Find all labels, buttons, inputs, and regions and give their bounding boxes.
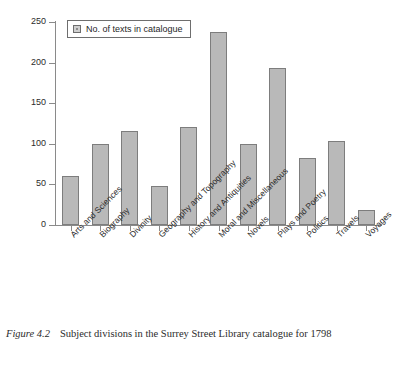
y-tick-label-100: 100: [14, 139, 46, 148]
y-tick-200: [49, 63, 55, 64]
bar-arts-and-sciences: [62, 176, 79, 225]
y-tick-label-50: 50: [14, 179, 46, 188]
y-tick-250: [49, 22, 55, 23]
figure-caption: Figure 4.2Subject divisions in the Surre…: [6, 327, 391, 341]
y-tick-150: [49, 103, 55, 104]
y-tick-100: [49, 144, 55, 145]
legend-label: No. of texts in catalogue: [86, 24, 183, 34]
y-tick-0: [49, 225, 55, 226]
figure-number: Figure 4.2: [6, 328, 50, 339]
legend-swatch-icon: [73, 25, 81, 33]
bar-plays-and-poetry: [269, 68, 286, 225]
y-tick-label-250: 250: [14, 17, 46, 26]
y-tick-label-0: 0: [14, 220, 46, 229]
y-tick-50: [49, 184, 55, 185]
figure-container: 050100150200250 Arts and SciencesBiograp…: [0, 0, 397, 373]
bar-travels: [328, 141, 345, 225]
y-tick-label-200: 200: [14, 58, 46, 67]
chart-legend: No. of texts in catalogue: [67, 20, 191, 38]
figure-caption-text: Subject divisions in the Surrey Street L…: [60, 328, 331, 339]
y-tick-label-150: 150: [14, 98, 46, 107]
